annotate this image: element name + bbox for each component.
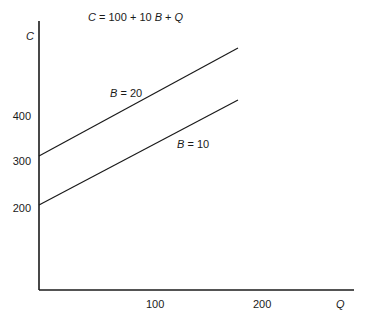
- line-label-b10: B = 10: [177, 138, 209, 150]
- line-b10: [39, 100, 238, 205]
- y-axis-label: C: [26, 30, 34, 42]
- line-label-b10-text: B = 10: [177, 138, 209, 150]
- x-axis-label: Q: [336, 298, 345, 310]
- equation-title: C = 100 + 10 B + Q: [88, 11, 183, 23]
- x-tick-100: 100: [146, 298, 164, 310]
- equation-text: C = 100 + 10 B + Q: [88, 11, 183, 23]
- chart-canvas: [0, 0, 368, 321]
- y-tick-200: 200: [1, 202, 31, 214]
- line-label-b20-text: B = 20: [110, 87, 142, 99]
- y-tick-400: 400: [1, 110, 31, 122]
- y-tick-300: 300: [1, 155, 31, 167]
- x-tick-200: 200: [253, 298, 271, 310]
- line-label-b20: B = 20: [110, 87, 142, 99]
